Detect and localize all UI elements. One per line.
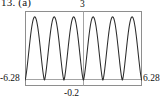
axes-group xyxy=(25,11,142,86)
exercise-part-label: (a) xyxy=(18,0,31,8)
plot-window xyxy=(25,11,142,86)
axis-label-x-max: 6.28 xyxy=(143,73,160,83)
plot-canvas xyxy=(25,11,142,86)
axis-label-y-max: 3 xyxy=(80,0,85,9)
axis-label-y-min: -0.2 xyxy=(64,88,79,98)
exercise-number: 13. xyxy=(1,0,15,8)
axis-label-x-min: -6.28 xyxy=(0,73,20,83)
exercise-caption: 13.(a) xyxy=(1,0,31,8)
figure-container: 13.(a) 3 -6.28 6.28 -0.2 xyxy=(0,0,162,103)
